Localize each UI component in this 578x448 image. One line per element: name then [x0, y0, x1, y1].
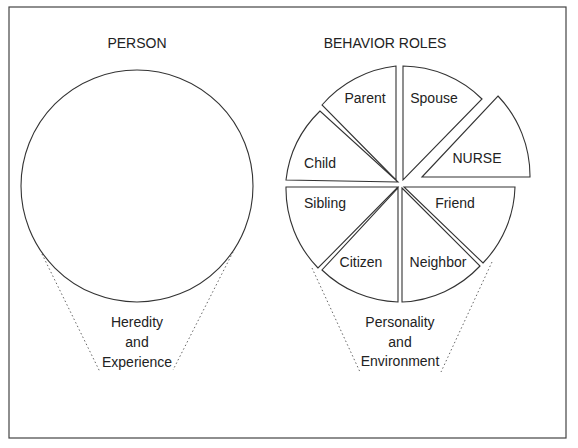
person-caption-line2: and — [125, 334, 148, 350]
behavior-roles-panel: BEHAVIOR ROLES Parent Spouse NURSE Child… — [286, 35, 530, 372]
diagram-canvas: PERSON Heredity and Experience BEHAVIOR … — [0, 0, 578, 448]
label-citizen: Citizen — [340, 254, 383, 270]
behavior-caption-line2: and — [388, 334, 411, 350]
person-caption-line1: Heredity — [111, 314, 163, 330]
label-spouse: Spouse — [410, 90, 458, 106]
behavior-caption-line3: Environment — [361, 353, 440, 369]
label-nurse: NURSE — [452, 150, 501, 166]
person-caption-line3: Experience — [102, 354, 172, 370]
label-sibling: Sibling — [304, 195, 346, 211]
label-friend: Friend — [435, 195, 475, 211]
behavior-caption-line1: Personality — [365, 314, 434, 330]
label-parent: Parent — [344, 90, 385, 106]
person-panel: PERSON Heredity and Experience — [21, 35, 253, 372]
label-neighbor: Neighbor — [410, 254, 467, 270]
label-child: Child — [304, 155, 336, 171]
behavior-roles-title: BEHAVIOR ROLES — [324, 35, 447, 51]
person-circle — [21, 70, 253, 302]
person-title: PERSON — [107, 35, 166, 51]
